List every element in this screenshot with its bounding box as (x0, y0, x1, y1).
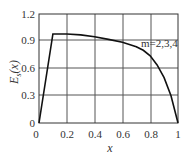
chart: 0 0.3 0.6 0.9 1.2 0 0.2 0.4 0.6 0.8 1 x … (0, 0, 188, 158)
x-tick: 0.8 (144, 128, 158, 140)
x-tick: 0.4 (88, 128, 102, 140)
x-tick: 0.2 (60, 128, 74, 140)
curve-annotation: m=2,3,4 (141, 37, 178, 49)
chart-svg: 0 0.3 0.6 0.9 1.2 0 0.2 0.4 0.6 0.8 1 x … (0, 0, 188, 158)
y-tick: 1.2 (21, 8, 35, 20)
y-tick: 0.3 (21, 89, 35, 101)
y-tick: 0.6 (21, 62, 35, 74)
x-axis-label: x (106, 141, 113, 155)
y-axis-label: Es(x) (7, 60, 23, 85)
x-tick: 0 (33, 128, 39, 140)
y-tick: 0.9 (21, 34, 35, 46)
y-tick-labels: 0 0.3 0.6 0.9 1.2 (21, 8, 35, 129)
x-tick: 0.6 (116, 128, 130, 140)
x-tick-labels: 0 0.2 0.4 0.6 0.8 1 (33, 128, 181, 140)
x-tick: 1 (175, 128, 181, 140)
grid (39, 14, 178, 123)
